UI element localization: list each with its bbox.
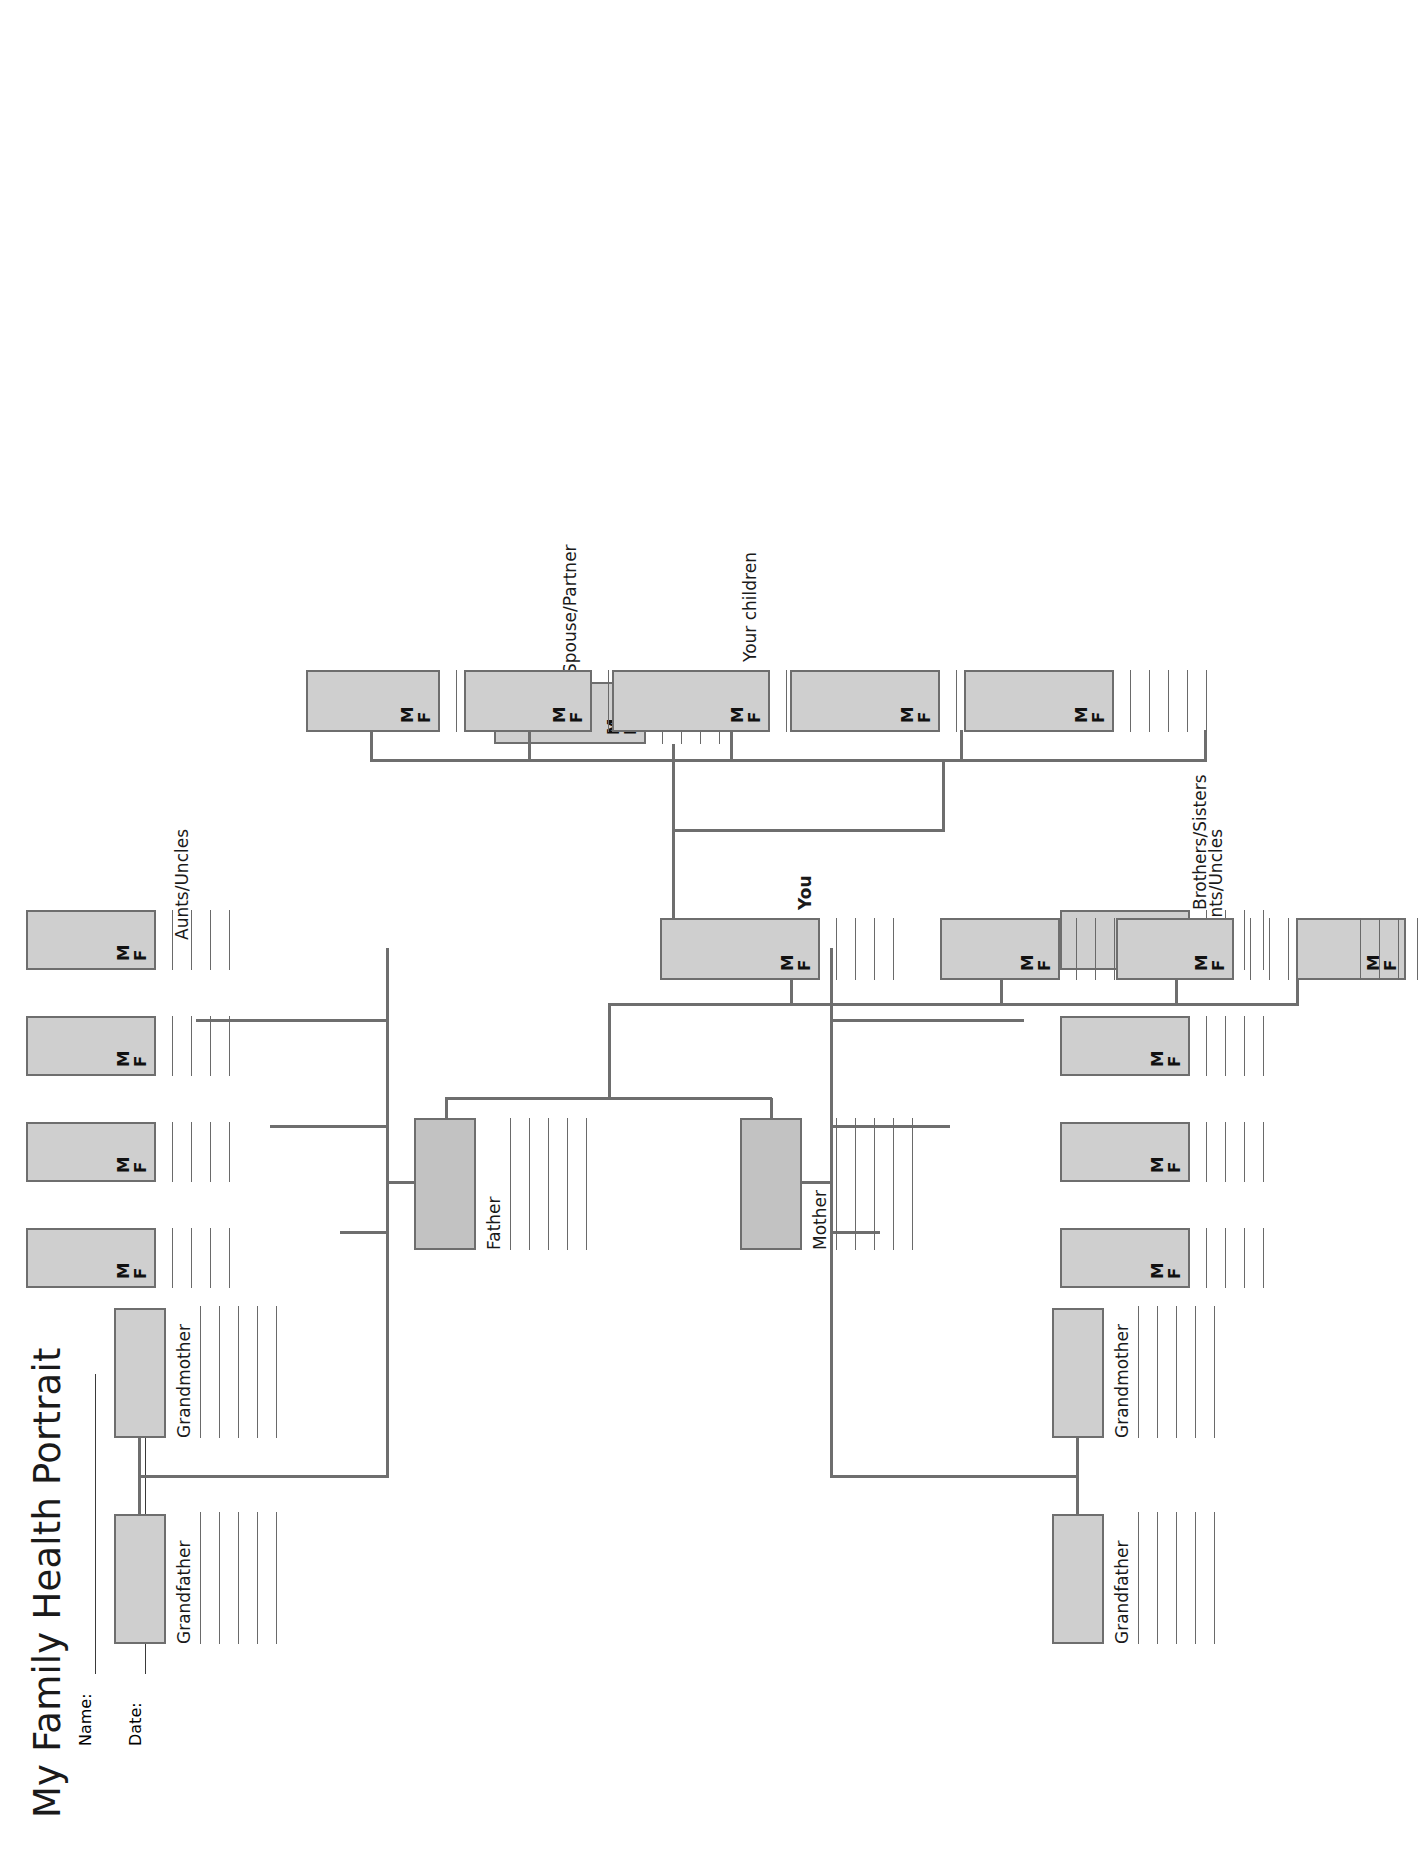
sex-marker[interactable]: MF — [780, 955, 814, 971]
connector-mother-tie — [770, 1098, 773, 1118]
connector-stub-sibling-1 — [1000, 978, 1003, 1006]
connector-stub-child-1 — [370, 730, 373, 762]
sex-marker[interactable]: MF — [116, 1157, 150, 1173]
connector-mother-to-bus — [802, 1181, 830, 1184]
sex-marker[interactable]: MF — [1194, 955, 1228, 971]
label-your-children: Your children — [740, 552, 760, 662]
connector-maternal-stub-2 — [830, 1125, 950, 1128]
box-sibling-2[interactable]: MF — [1116, 918, 1234, 980]
connector-maternal-sibship-bus — [830, 948, 833, 1478]
box-paternal-aunt-uncle-1[interactable]: MF — [26, 910, 156, 970]
box-maternal-aunt-uncle-4[interactable]: MF — [1060, 1228, 1190, 1288]
box-maternal-aunt-uncle-3[interactable]: MF — [1060, 1122, 1190, 1182]
connector-stub-child-4 — [960, 730, 963, 762]
name-input[interactable] — [95, 1374, 96, 1674]
box-child-4[interactable]: MF — [790, 670, 940, 732]
label-maternal-grandmother: Grandmother — [1112, 1324, 1132, 1438]
connector-parents-descent — [608, 1004, 611, 1100]
label-maternal-grandfather: Grandfather — [1112, 1541, 1132, 1644]
connector-father-tie — [445, 1098, 448, 1118]
date-field-label: Date: — [126, 1702, 145, 1746]
connector-children-descent — [672, 829, 944, 832]
connector-sibship-bus-you — [608, 1003, 1296, 1006]
sex-marker[interactable]: MF — [1366, 955, 1400, 971]
sex-marker[interactable]: MF — [116, 1263, 150, 1279]
box-sibling-1[interactable]: MF — [940, 918, 1060, 980]
box-maternal-grandmother[interactable] — [1052, 1308, 1104, 1438]
sex-marker[interactable]: MF — [1150, 1051, 1184, 1067]
connector-paternal-drop — [138, 1475, 388, 1478]
page-title: My Family Health Portrait — [26, 1347, 69, 1818]
sex-marker[interactable]: MF — [116, 1051, 150, 1067]
label-mother: Mother — [810, 1190, 830, 1250]
sex-marker[interactable]: MF — [552, 707, 586, 723]
label-paternal-aunts-uncles: Aunts/Uncles — [172, 829, 192, 940]
label-father: Father — [484, 1196, 504, 1250]
label-brothers-sisters: Brothers/Sisters — [1190, 775, 1210, 911]
sex-marker[interactable]: MF — [1150, 1157, 1184, 1173]
sex-marker[interactable]: MF — [1150, 1263, 1184, 1279]
label-paternal-grandmother: Grandmother — [174, 1324, 194, 1438]
box-child-5[interactable]: MF — [964, 670, 1114, 732]
connector-maternal-stub-3 — [830, 1019, 1024, 1022]
connector-maternal-drop — [830, 1475, 1078, 1478]
box-maternal-grandfather[interactable] — [1052, 1514, 1104, 1644]
box-you[interactable]: MF — [660, 918, 820, 980]
connector-paternal-stub-2 — [270, 1125, 388, 1128]
label-paternal-grandfather: Grandfather — [174, 1541, 194, 1644]
connector-children-sibship-bus — [370, 759, 1206, 762]
sex-marker[interactable]: MF — [400, 707, 434, 723]
connector-stub-child-5 — [1204, 730, 1207, 762]
box-paternal-aunt-uncle-3[interactable]: MF — [26, 1122, 156, 1182]
name-field-label: Name: — [76, 1693, 95, 1746]
label-spouse-partner: Spouse/Partner — [560, 544, 580, 674]
connector-paternal-sibship-bus — [386, 948, 389, 1478]
box-father[interactable] — [414, 1118, 476, 1250]
box-child-1[interactable]: MF — [306, 670, 440, 732]
box-sibling-3[interactable]: MF — [1296, 918, 1406, 980]
box-child-2[interactable]: MF — [464, 670, 592, 732]
box-paternal-aunt-uncle-2[interactable]: MF — [26, 1016, 156, 1076]
box-mother[interactable] — [740, 1118, 802, 1250]
label-you: You — [795, 875, 815, 910]
connector-stub-you — [790, 978, 793, 1006]
connector-paternal-stub-1 — [340, 1231, 388, 1234]
connector-paternal-stub-3 — [196, 1019, 388, 1022]
connector-children-descent-h — [942, 760, 945, 832]
sex-marker[interactable]: MF — [730, 707, 764, 723]
connector-father-to-bus — [386, 1181, 414, 1184]
box-paternal-grandmother[interactable] — [114, 1308, 166, 1438]
sex-marker[interactable]: MF — [1020, 955, 1054, 971]
connector-stub-child-3 — [730, 730, 733, 762]
connector-stub-child-2 — [528, 730, 531, 762]
box-maternal-aunt-uncle-2[interactable]: MF — [1060, 1016, 1190, 1076]
sex-marker[interactable]: MF — [900, 707, 934, 723]
sex-marker[interactable]: MF — [1074, 707, 1108, 723]
box-paternal-grandfather[interactable] — [114, 1514, 166, 1644]
box-child-3[interactable]: MF — [612, 670, 770, 732]
sex-marker[interactable]: MF — [116, 945, 150, 961]
box-paternal-aunt-uncle-4[interactable]: MF — [26, 1228, 156, 1288]
connector-stub-sibling-3 — [1296, 978, 1299, 1006]
connector-stub-sibling-2 — [1175, 978, 1178, 1006]
